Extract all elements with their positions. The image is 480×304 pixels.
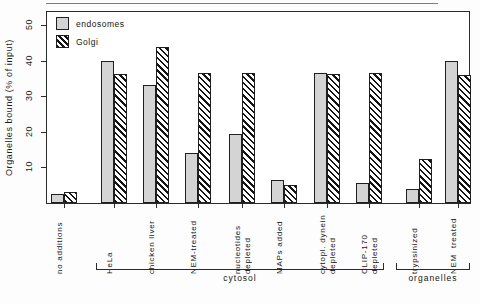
x-category-label: no additions bbox=[55, 208, 75, 274]
bar-golgi-8 bbox=[419, 159, 432, 203]
y-tick-label: 20 bbox=[24, 123, 35, 141]
y-axis-title: Organelles bound (% of input) bbox=[2, 28, 16, 188]
y-tick-label: 30 bbox=[24, 87, 35, 105]
bar-golgi-0 bbox=[64, 192, 77, 203]
bar-golgi-7 bbox=[369, 73, 382, 203]
bar-golgi-6 bbox=[327, 74, 340, 203]
group-label: organelles bbox=[396, 273, 470, 283]
bar-golgi-1 bbox=[114, 74, 127, 203]
bar-golgi-9 bbox=[458, 75, 471, 203]
bar-endosomes-6 bbox=[314, 73, 327, 203]
bar-endosomes-8 bbox=[406, 189, 419, 203]
y-tick-label: 10 bbox=[24, 158, 35, 176]
x-axis-baseline bbox=[46, 203, 471, 204]
bar-chart: Organelles bound (% of input) 1020304050… bbox=[0, 0, 480, 304]
bar-endosomes-4 bbox=[229, 134, 242, 203]
bar-endosomes-7 bbox=[356, 183, 369, 203]
scan-artifact-rule bbox=[46, 3, 438, 4]
bar-golgi-4 bbox=[242, 73, 255, 203]
bar-endosomes-1 bbox=[101, 61, 114, 203]
bar-endosomes-3 bbox=[185, 153, 198, 203]
group-bracket bbox=[396, 263, 470, 270]
y-tick-label: 50 bbox=[24, 16, 35, 34]
bar-endosomes-5 bbox=[271, 180, 284, 203]
group-bracket bbox=[96, 263, 384, 270]
bar-endosomes-9 bbox=[445, 61, 458, 203]
bar-endosomes-0 bbox=[51, 194, 64, 203]
group-label: cytosol bbox=[96, 273, 384, 283]
bar-golgi-2 bbox=[156, 47, 169, 203]
bar-golgi-3 bbox=[198, 73, 211, 203]
bars-layer bbox=[46, 11, 470, 203]
y-tick-label: 40 bbox=[24, 52, 35, 70]
bar-golgi-5 bbox=[284, 185, 297, 203]
bar-endosomes-2 bbox=[143, 85, 156, 203]
